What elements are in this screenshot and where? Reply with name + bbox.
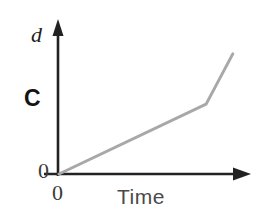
- data-series-line: [59, 54, 233, 174]
- y-axis-label: d: [31, 24, 42, 46]
- y-axis-arrowhead: [53, 19, 64, 36]
- y-axis-origin-label: 0: [38, 160, 49, 182]
- panel-label: C: [24, 87, 41, 110]
- x-axis-origin-label: 0: [52, 182, 63, 204]
- x-axis-label: Time: [117, 186, 165, 207]
- x-axis-arrowhead: [233, 168, 251, 181]
- figure-panel: d C 0 0 Time: [0, 0, 266, 219]
